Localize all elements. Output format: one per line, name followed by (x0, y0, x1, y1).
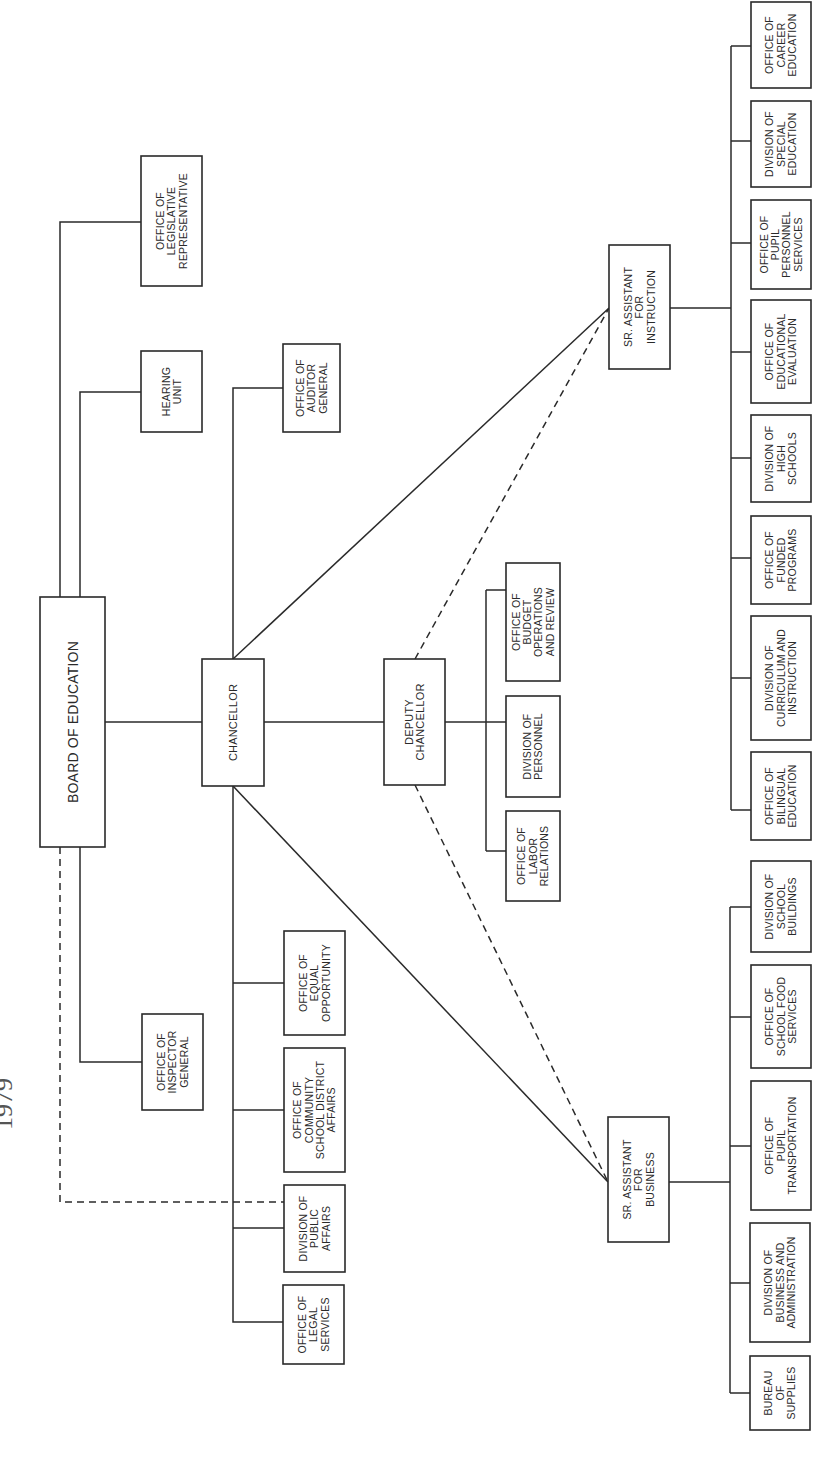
box-label-line: HEARING (160, 367, 172, 416)
box-label-line: SR. ASSISTANT (621, 1139, 633, 1219)
box-label-line: INSTRUCTION (786, 641, 798, 715)
box-label-line: OFFICE OF (763, 767, 775, 825)
box-label-line: COMMUNITY (303, 1077, 315, 1144)
box-label-line: CURRICULUM AND (775, 629, 787, 727)
box-label-line: CHANCELLOR (414, 683, 426, 760)
year-text: 1979 (0, 1078, 18, 1130)
office-of-equal-opportunity-box: OFFICE OFEQUALOPPORTUNITY (284, 931, 345, 1035)
box-label-line: AUDITOR (305, 364, 317, 413)
box-label-line: SCHOOLS (786, 432, 798, 485)
box-label-line: FOR (632, 1168, 644, 1191)
box-label: DIVISION OFBUSINESS ANDADMINISTRATION (762, 1237, 797, 1329)
box-label-line: EDUCATION (786, 113, 798, 176)
year-label-fragment: 1979 (0, 1078, 18, 1130)
box-label-line: OPERATIONS (532, 587, 544, 657)
chancellor-box: CHANCELLOR (202, 659, 264, 786)
sr-assistant-for-instruction-box: SR. ASSISTANTFORINSTRUCTION (609, 245, 670, 369)
office-of-community-school-district-affairs-box: OFFICE OFCOMMUNITYSCHOOL DISTRICTAFFAIRS (284, 1048, 345, 1172)
box-label-line: SR. ASSISTANT (622, 267, 634, 347)
connector-line (233, 786, 283, 1322)
box-label-line: SCHOOL (775, 884, 787, 930)
box-label-line: DIVISION OF (762, 1250, 774, 1316)
box-label-line: SPECIAL (775, 121, 787, 167)
box-label-line: ADMINISTRATION (785, 1237, 797, 1329)
box-label-line: SERVICES (786, 989, 798, 1044)
box-label-line: DIVISION OF (763, 874, 775, 940)
office-of-educational-evaluation-box: OFFICE OFEDUCATIONALEVALUATION (751, 300, 811, 403)
office-of-school-food-services-box: OFFICE OFSCHOOL FOODSERVICES (751, 965, 811, 1068)
box-label: DIVISION OFPERSONNEL (521, 713, 544, 780)
box-label-line: OF (774, 1386, 786, 1401)
box-label-line: DEPUTY (403, 699, 415, 745)
bureau-of-supplies-box: BUREAUOFSUPPLIES (750, 1356, 810, 1430)
division-of-business-and-administration-box: DIVISION OFBUSINESS ANDADMINISTRATION (750, 1223, 810, 1342)
box-label-line: TRANSPORTATION (786, 1097, 798, 1195)
box-label-line: OFFICE OF (155, 1033, 167, 1091)
office-of-bilingual-education-box: OFFICE OFBILINGUALEDUCATION (751, 752, 811, 840)
box-label-line: PUPIL (775, 1130, 787, 1161)
box-label-line: OFFICE OF (758, 216, 770, 274)
office-of-inspector-general-box: OFFICE OFINSPECTORGENERAL (142, 1014, 203, 1110)
box-label-line: FUNDED (775, 537, 787, 582)
box-label-line: OFFICE OF (763, 16, 775, 74)
box-label-line: BUREAU (762, 1371, 774, 1416)
box-label-line: DIVISION OF (763, 645, 775, 711)
box-label-line: LABOR (527, 837, 539, 874)
division-of-public-affairs-box: DIVISION OFPUBLICAFFAIRS (284, 1185, 345, 1272)
box-label-line: REPRESENTATIVE (177, 173, 189, 269)
box-label-line: EDUCATIONAL (775, 313, 787, 389)
box-label-line: PUBLIC (308, 1209, 320, 1248)
office-of-pupil-transportation-box: OFFICE OFPUPILTRANSPORTATION (751, 1081, 811, 1210)
box-label: OFFICE OFFUNDEDPROGRAMS (763, 529, 798, 592)
org-boxes: BOARD OF EDUCATIONOFFICE OFLEGISLATIVERE… (40, 2, 811, 1430)
box-label-line: BOARD OF EDUCATION (65, 641, 81, 803)
box-label-line: EDUCATION (786, 14, 798, 77)
box-label-line: GENERAL (317, 362, 329, 414)
box-label-line: PROGRAMS (786, 529, 798, 592)
box-label: OFFICE OFEDUCATIONALEVALUATION (763, 313, 798, 389)
box-label-line: OFFICE OF (763, 323, 775, 381)
box-label-line: OFFICE OF (763, 531, 775, 589)
hearing-unit-box: HEARINGUNIT (141, 351, 202, 432)
box-label-line: CAREER (775, 22, 787, 67)
box-label-line: OFFICE OF (294, 359, 306, 417)
box-label-line: SERVICES (319, 1297, 331, 1352)
office-of-auditor-general-box: OFFICE OFAUDITORGENERAL (283, 344, 340, 432)
office-of-career-education-box: OFFICE OFCAREEREDUCATION (751, 2, 811, 88)
box-label-line: UNIT (171, 378, 183, 404)
box-label: OFFICE OFAUDITORGENERAL (294, 359, 329, 417)
box-label-line: LEGAL (307, 1307, 319, 1342)
box-label-line: CHANCELLOR (227, 684, 239, 761)
box-label-line: EDUCATION (786, 765, 798, 828)
box-label-line: FOR (633, 295, 645, 318)
office-of-pupil-personnel-services-box: OFFICE OFPUPILPERSONNELSERVICES (751, 200, 811, 289)
box-label-line: DIVISION OF (763, 426, 775, 492)
box-label-line: SERVICES (792, 217, 804, 272)
box-label-line: PERSONNEL (780, 211, 792, 278)
box-label-line: OFFICE OF (510, 593, 522, 651)
box-label-line: BILINGUAL (775, 768, 787, 825)
box-label-line: OFFICE OF (763, 1117, 775, 1175)
office-of-legislative-representative-box: OFFICE OFLEGISLATIVEREPRESENTATIVE (141, 156, 202, 286)
box-label-line: BUSINESS (644, 1152, 656, 1207)
box-label-line: DIVISION OF (763, 111, 775, 177)
connector-line (80, 847, 142, 1062)
box-label-line: OFFICE OF (291, 1081, 303, 1139)
box-label-line: OFFICE OF (763, 988, 775, 1046)
connector-line (80, 392, 141, 597)
division-of-special-education-box: DIVISION OFSPECIALEDUCATION (751, 101, 811, 187)
box-label-line: OFFICE OF (296, 1296, 308, 1354)
box-label-line: OFFICE OF (515, 827, 527, 885)
box-label: OFFICE OFBILINGUALEDUCATION (763, 765, 798, 828)
box-label-line: OFFICE OF (297, 954, 309, 1012)
office-of-legal-services-box: OFFICE OFLEGALSERVICES (283, 1285, 344, 1364)
box-label-line: INSPECTOR (166, 1030, 178, 1093)
box-label-line: AND REVIEW (544, 588, 556, 657)
box-label-line: SCHOOL FOOD (775, 977, 787, 1057)
board-of-education-box: BOARD OF EDUCATION (40, 597, 105, 847)
org-chart: 1979 BOARD OF EDUCATIONOFFICE OFLEGISLAT… (0, 0, 832, 1480)
division-of-curriculum-and-instruction-box: DIVISION OFCURRICULUM ANDINSTRUCTION (751, 616, 811, 740)
box-label: OFFICE OFINSPECTORGENERAL (155, 1030, 190, 1093)
box-label-line: OPPORTUNITY (320, 944, 332, 1022)
box-label-line: AFFAIRS (325, 1087, 337, 1132)
